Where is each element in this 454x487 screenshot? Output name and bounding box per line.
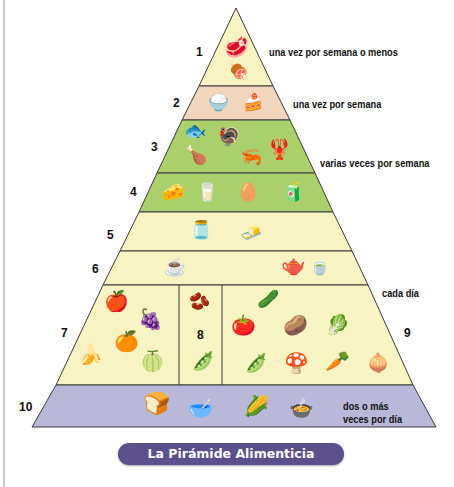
tier-5-band [120,212,352,251]
coffee-cup-icon: ☕ [162,256,188,278]
steak-icon: 🥩 [223,36,249,58]
milk-carton-icon: 🧃 [280,181,306,203]
butter-icon: 🧈 [238,222,264,244]
cereal-bowl-icon: 🥣 [187,397,213,419]
cucumber-icon: 🥒 [255,288,281,310]
tier-number-5: 5 [107,228,114,242]
oil-bottle-icon: 🫙 [188,219,214,241]
green-beans-icon: 🫛 [190,350,216,372]
apple-icon: 🍎 [103,290,129,312]
tier-number-3: 3 [151,140,158,154]
tier-number-4: 4 [130,185,137,199]
frequency-label-daily: cada día [382,287,419,300]
orange-icon: 🍊 [113,330,139,352]
cake-icon: 🍰 [240,92,266,114]
frequency-label-tier-3: varias veces por semana [320,157,429,170]
teapot-icon: 🫖 [280,254,306,276]
tier-2-band [182,86,290,120]
fish-icon: 🐟 [182,120,208,142]
lobster-icon: 🦞 [266,138,292,160]
frequency-label-tier-2: una vez por semana [293,98,381,111]
tier-number-2: 2 [173,96,180,110]
chicken-leg-icon: 🍗 [183,144,209,166]
tier-number-6: 6 [92,262,99,276]
peas-icon: 🫛 [243,352,269,374]
rice-bowl-icon: 🍲 [288,397,314,419]
frequency-label-tier-10-line2: veces por día [343,413,402,426]
shrimp-icon: 🦐 [238,146,264,168]
banana-icon: 🍌 [77,343,103,365]
tier-number-9: 9 [404,326,411,340]
frequency-label-tier-1: una vez por semana o menos [269,46,398,59]
grapes-icon: 🍇 [137,308,163,330]
cheese-icon: 🧀 [160,181,186,203]
frequency-label-tier-10-line1: dos o más [343,400,389,413]
eggs-icon: 🥚 [235,181,261,203]
tier-number-7: 7 [61,326,68,340]
carrot-icon: 🥕 [324,350,350,372]
melon-icon: 🍈 [139,350,165,372]
sugar-bowl-icon: 🍚 [205,92,231,114]
tier-number-8: 8 [197,328,204,342]
bread-icon: 🍞 [141,393,171,415]
onion-icon: 🧅 [365,352,391,374]
beans-icon: 🫘 [186,291,212,313]
roast-chicken-icon: 🦃 [216,126,242,148]
teacup-icon: 🍵 [307,256,333,278]
pyramid-title: La Pirámide Alimenticia Latinoamericana [118,443,344,465]
cabbage-icon: 🥬 [324,314,350,336]
potato-icon: 🥔 [282,314,308,336]
yogurt-icon: 🥛 [194,181,220,203]
tomato-icon: 🍅 [230,314,256,336]
meat-icon: 🍖 [225,60,251,82]
tier-number-10: 10 [19,400,32,414]
tier-number-1: 1 [196,45,203,59]
corn-icon: 🌽 [243,395,269,417]
mushroom-icon: 🍄 [283,352,309,374]
